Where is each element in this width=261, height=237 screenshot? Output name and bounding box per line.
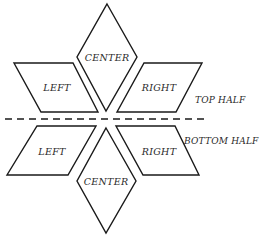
star-pattern-diagram: CENTER LEFT RIGHT TOP HALF BOTTOM HALF L… <box>0 0 261 237</box>
top-half-group: CENTER LEFT RIGHT <box>14 4 202 112</box>
bottom-left-label: LEFT <box>37 146 66 157</box>
top-half-label: TOP HALF <box>195 95 246 105</box>
bottom-center-label: CENTER <box>84 176 129 187</box>
top-right-label: RIGHT <box>141 82 177 93</box>
bottom-half-label: BOTTOM HALF <box>183 136 259 146</box>
top-left-label: LEFT <box>42 82 71 93</box>
bottom-right-label: RIGHT <box>141 146 177 157</box>
bottom-half-group: LEFT RIGHT CENTER <box>7 126 199 233</box>
top-center-label: CENTER <box>85 52 130 63</box>
